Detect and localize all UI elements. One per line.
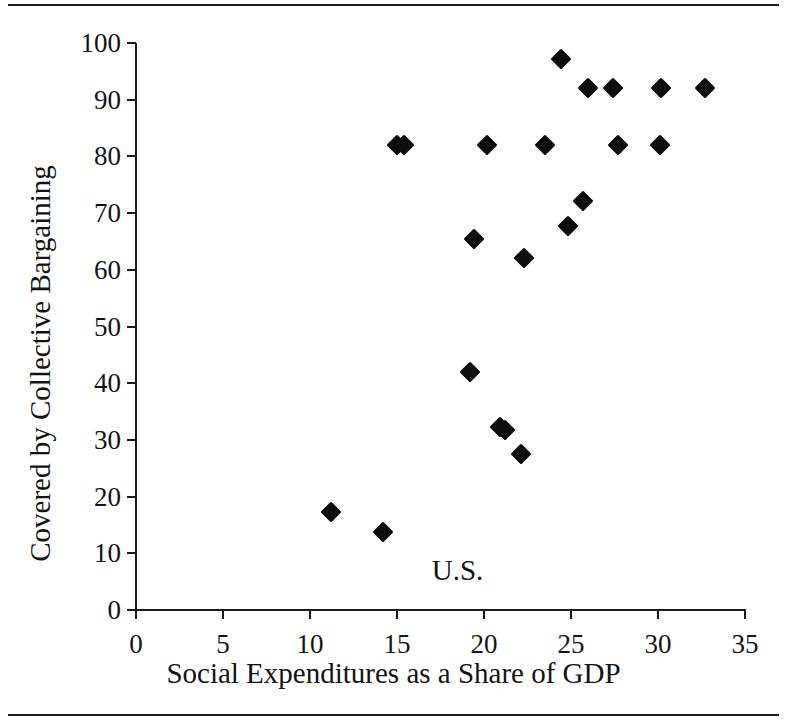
y-tick [127,496,136,498]
x-tick-label: 15 [384,631,411,658]
data-point [510,443,531,464]
data-point [320,501,341,522]
top-horizontal-rule [8,4,779,6]
y-tick [127,439,136,441]
y-tick [127,326,136,328]
y-tick-label: 70 [94,200,121,227]
us-annotation-label: U.S. [432,556,484,585]
data-point [372,521,393,542]
y-axis-title: Covered by Collective Bargaining [14,0,66,727]
bottom-horizontal-rule [8,714,779,716]
y-tick [127,212,136,214]
x-tick [396,610,398,619]
data-point [477,134,498,155]
data-point [602,78,623,99]
y-tick-label: 90 [94,86,121,113]
data-point [513,248,534,269]
x-axis-line [135,609,746,611]
data-point [534,134,555,155]
data-point [649,134,670,155]
y-tick-label: 80 [94,143,121,170]
y-tick-label: 30 [94,426,121,453]
scatter-plot-figure: 0102030405060708090100 05101520253035 U.… [0,0,787,727]
data-point [550,48,571,69]
x-tick [135,610,137,619]
data-point [459,361,480,382]
x-tick-label: 10 [297,631,324,658]
plot-area: 0102030405060708090100 05101520253035 U.… [136,43,745,610]
data-point [573,190,594,211]
x-axis-title: Social Expenditures as a Share of GDP [0,659,787,688]
y-tick [127,382,136,384]
y-tick-label: 100 [81,30,122,57]
y-tick-label: 20 [94,483,121,510]
data-point [651,78,672,99]
y-tick [127,42,136,44]
data-point [607,134,628,155]
x-tick [309,610,311,619]
data-point [463,228,484,249]
x-tick [570,610,572,619]
data-point [694,78,715,99]
x-tick-label: 20 [471,631,498,658]
y-tick [127,269,136,271]
y-tick [127,155,136,157]
x-tick [744,610,746,619]
x-tick-label: 5 [216,631,230,658]
x-tick-label: 30 [645,631,672,658]
x-tick [483,610,485,619]
y-tick [127,552,136,554]
data-point [557,216,578,237]
x-tick [222,610,224,619]
x-tick [657,610,659,619]
y-tick-label: 0 [108,597,122,624]
x-tick-label: 25 [558,631,585,658]
y-tick-label: 50 [94,313,121,340]
x-tick-label: 35 [732,631,759,658]
data-point [578,78,599,99]
x-tick-label: 0 [129,631,143,658]
y-tick-label: 40 [94,370,121,397]
y-tick [127,99,136,101]
y-tick-label: 60 [94,256,121,283]
y-tick-label: 10 [94,540,121,567]
